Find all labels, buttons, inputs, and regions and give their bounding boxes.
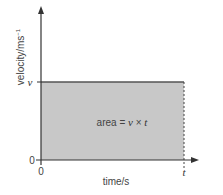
y-tick-label-0: 0 xyxy=(29,155,35,166)
area-label-times: × xyxy=(133,117,144,128)
x-axis-label: time/s xyxy=(103,176,130,187)
x-tick-label-0: 0 xyxy=(38,166,44,177)
y-axis-label: velocity/ms−1 xyxy=(15,28,26,85)
x-tick-label-t: t xyxy=(182,166,186,178)
area-label: area = v × t xyxy=(97,116,149,128)
y-axis-arrow-icon xyxy=(38,6,44,14)
y-axis-label-text: velocity/ms xyxy=(15,36,26,85)
area-label-prefix: area = xyxy=(97,117,128,128)
x-axis-arrow-icon xyxy=(191,157,199,163)
svg-text:velocity/ms−1: velocity/ms−1 xyxy=(15,28,26,85)
velocity-time-graph: v 0 0 t time/s velocity/ms−1 area = v × … xyxy=(0,0,223,195)
y-axis-label-sup: −1 xyxy=(15,28,21,36)
y-tick-label-v: v xyxy=(28,76,33,88)
